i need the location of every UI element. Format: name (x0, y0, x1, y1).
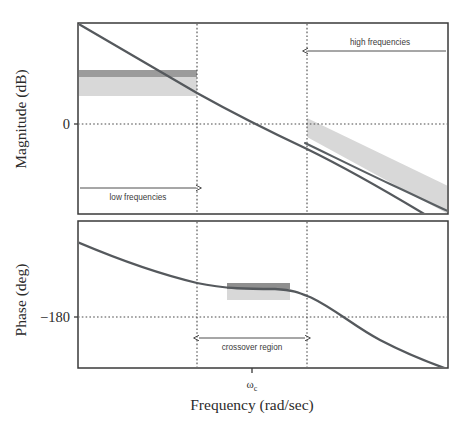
crossover-region-label: crossover region (222, 343, 283, 352)
low-frequency-bound-band (78, 77, 197, 96)
phase-margin-band (227, 289, 290, 300)
high-frequencies-label: high frequencies (350, 38, 410, 47)
phase-axis-label: Phase (deg) (12, 264, 30, 337)
bode-plot-figure: 0 Magnitude (dB) low frequencies high fr… (0, 0, 471, 423)
magnitude-axis-label: Magnitude (dB) (12, 69, 30, 168)
magnitude-ytick-0: 0 (63, 116, 70, 132)
low-frequency-bound-strip (78, 70, 197, 77)
figure-background (0, 0, 471, 423)
low-frequencies-label: low frequencies (110, 193, 167, 202)
phase-ytick-minus180: −180 (40, 309, 70, 325)
frequency-axis-label: Frequency (rad/sec) (190, 396, 314, 414)
